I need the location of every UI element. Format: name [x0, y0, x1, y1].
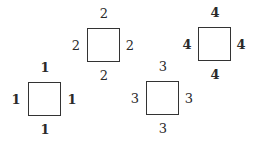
square-3-label-left: 3 — [129, 92, 141, 105]
square-4-label-top: 4 — [209, 6, 221, 19]
square-2-label-left: 2 — [70, 39, 82, 52]
square-4-label-right: 4 — [235, 38, 247, 51]
square-1-label-bottom: 1 — [39, 123, 51, 136]
square-4 — [198, 27, 231, 61]
square-2 — [87, 28, 120, 62]
square-1-label-right: 1 — [66, 93, 78, 106]
square-1-label-top: 1 — [39, 61, 51, 74]
square-1-label-left: 1 — [10, 93, 22, 106]
square-3-label-bottom: 3 — [157, 122, 169, 135]
square-1 — [28, 82, 61, 116]
square-4-label-left: 4 — [181, 38, 193, 51]
square-4-label-bottom: 4 — [209, 68, 221, 81]
square-2-label-right: 2 — [124, 39, 136, 52]
square-2-label-bottom: 2 — [98, 69, 110, 82]
square-3 — [146, 81, 179, 115]
square-3-label-top: 3 — [157, 60, 169, 73]
square-3-label-right: 3 — [183, 92, 195, 105]
square-2-label-top: 2 — [98, 7, 110, 20]
